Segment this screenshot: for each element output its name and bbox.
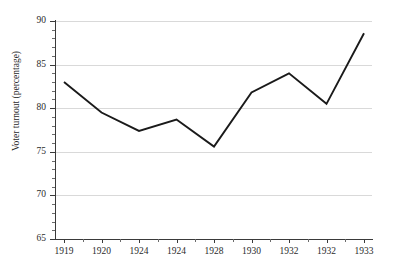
y-axis-tick: [50, 21, 55, 22]
y-axis-tick-label: 90: [22, 16, 46, 26]
chart-figure: Voter turnout (percentage) 657075808590 …: [0, 0, 393, 270]
y-axis-tick-label: 80: [22, 103, 46, 113]
y-axis-tick: [50, 152, 55, 153]
y-axis-minor-tick: [52, 161, 55, 162]
y-axis-minor-tick: [52, 38, 55, 39]
y-axis-tick: [50, 65, 55, 66]
y-axis-minor-tick: [52, 222, 55, 223]
x-axis-minor-tick: [345, 239, 346, 242]
x-axis-tick-label: 1932: [269, 247, 309, 257]
x-axis-tick-label: 1932: [307, 247, 347, 257]
y-axis-minor-tick: [52, 230, 55, 231]
x-axis-tick-label: 1930: [232, 247, 272, 257]
y-axis-minor-tick: [52, 204, 55, 205]
x-axis-tick: [177, 239, 178, 243]
y-axis-minor-tick: [52, 213, 55, 214]
x-axis-minor-tick: [83, 239, 84, 242]
y-axis-minor-tick: [52, 47, 55, 48]
x-axis-minor-tick: [233, 239, 234, 242]
y-axis-tick: [50, 195, 55, 196]
y-axis-minor-tick: [52, 30, 55, 31]
y-axis-minor-tick: [52, 117, 55, 118]
x-axis-minor-tick: [158, 239, 159, 242]
x-axis-tick-label: 1924: [157, 247, 197, 257]
x-axis-tick: [139, 239, 140, 243]
x-axis-tick: [64, 239, 65, 243]
y-axis-minor-tick: [52, 56, 55, 57]
x-axis-minor-tick: [270, 239, 271, 242]
y-axis-minor-tick: [52, 126, 55, 127]
y-axis-minor-tick: [52, 178, 55, 179]
y-axis-tick-label: 85: [22, 60, 46, 70]
x-axis-tick-label: 1924: [119, 247, 159, 257]
x-axis-tick: [102, 239, 103, 243]
y-axis-tick: [50, 239, 55, 240]
x-axis-tick-label: 1920: [82, 247, 122, 257]
y-axis-minor-tick: [52, 187, 55, 188]
series-line-voter-turnout: [56, 21, 372, 239]
plot-area: [56, 21, 372, 239]
y-axis-tick-label: 70: [22, 190, 46, 200]
x-axis-tick-label: 1928: [194, 247, 234, 257]
y-axis-tick: [50, 108, 55, 109]
x-axis-minor-tick: [120, 239, 121, 242]
y-axis-minor-tick: [52, 99, 55, 100]
y-axis-tick-label: 75: [22, 147, 46, 157]
x-axis-minor-tick: [308, 239, 309, 242]
x-axis-tick: [289, 239, 290, 243]
y-axis-minor-tick: [52, 82, 55, 83]
x-axis-tick: [364, 239, 365, 243]
y-axis-minor-tick: [52, 134, 55, 135]
y-axis-minor-tick: [52, 169, 55, 170]
x-axis-tick-label: 1919: [44, 247, 84, 257]
y-axis-title: Voter turnout (percentage): [11, 11, 21, 191]
y-axis-minor-tick: [52, 73, 55, 74]
x-axis-tick-label: 1933: [344, 247, 384, 257]
y-axis-minor-tick: [52, 143, 55, 144]
x-axis-tick: [327, 239, 328, 243]
x-axis-tick: [214, 239, 215, 243]
x-axis-minor-tick: [195, 239, 196, 242]
y-axis-tick-label: 65: [22, 234, 46, 244]
y-axis-minor-tick: [52, 91, 55, 92]
x-axis-tick: [252, 239, 253, 243]
